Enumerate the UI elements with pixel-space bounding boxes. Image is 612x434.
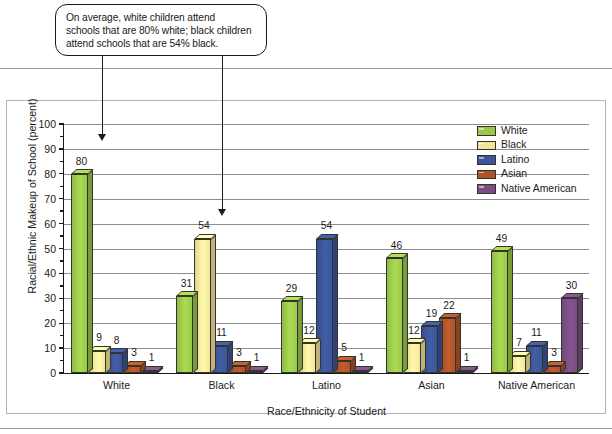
legend-swatch-icon (477, 155, 496, 165)
bar-value-label: 11 (207, 328, 236, 338)
x-category-label-black: Black (169, 379, 274, 391)
x-axis-title: Race/Ethnicity of Student (64, 405, 589, 417)
bar-face (176, 296, 193, 373)
bar-value-label: 1 (347, 353, 376, 363)
bar-black-white[interactable] (176, 296, 193, 373)
bar-value-label: 49 (487, 234, 516, 244)
bar-value-label: 29 (277, 284, 306, 294)
bar-side (438, 321, 443, 373)
bar-face (281, 301, 298, 373)
legend-label: Asian (501, 169, 527, 179)
callout-arrowhead-black (218, 209, 226, 216)
callout-line-3: attend schools that are 54% black. (66, 37, 257, 50)
legend-item-white[interactable]: White (477, 124, 577, 138)
bar-face (491, 251, 508, 373)
bar-side (193, 291, 198, 373)
bar-value-label: 80 (67, 157, 96, 167)
bar-value-label: 7 (505, 338, 534, 348)
bar-value-label: 46 (382, 241, 411, 251)
bar-face (456, 371, 473, 373)
bar-native-american-white[interactable] (491, 251, 508, 373)
bar-latino-white[interactable] (281, 301, 298, 373)
bar-value-label: 11 (522, 328, 551, 338)
bar-face (386, 258, 403, 373)
callout-leader-line-white (102, 56, 103, 136)
legend-swatch-icon (477, 184, 496, 194)
bar-value-label: 31 (172, 279, 201, 289)
legend-item-black[interactable]: Black (477, 138, 577, 152)
bar-value-label: 30 (557, 281, 586, 291)
bar-value-label: 54 (312, 221, 341, 231)
legend-item-latino[interactable]: Latino (477, 153, 577, 167)
legend-swatch-icon (477, 141, 496, 151)
page-rule-top (0, 68, 612, 69)
legend-swatch-icon (477, 126, 496, 136)
bar-side (456, 314, 461, 373)
y-tick-label-0: 0 (34, 368, 56, 379)
bar-value-label: 12 (400, 326, 429, 336)
callout-box: On average, white children attend school… (55, 4, 267, 56)
bar-side (403, 254, 408, 373)
legend-label: White (501, 126, 528, 136)
bar-side (316, 339, 321, 373)
bar-side (508, 246, 513, 373)
legend-label: Black (501, 140, 526, 150)
bar-value-label: 1 (452, 353, 481, 363)
x-category-label-latino: Latino (274, 379, 379, 391)
callout-line-2: schools that are 80% white; black childr… (66, 24, 257, 37)
bar-side (211, 234, 216, 373)
x-category-label-white: White (64, 379, 169, 391)
legend-swatch-icon (477, 170, 496, 180)
bar-asian-native-american[interactable] (456, 371, 473, 373)
bar-value-label: 5 (330, 343, 359, 353)
legend-item-asian[interactable]: Asian (477, 167, 577, 181)
legend-label: Native American (501, 184, 577, 194)
bar-value-label: 1 (137, 353, 166, 363)
callout-leader-line-black (222, 56, 223, 211)
bar-value-label: 3 (540, 348, 569, 358)
chart-legend: WhiteBlackLatinoAsianNative American (477, 124, 577, 196)
y-axis-title: Racial/Ethnic Makeup of School (percent) (26, 71, 38, 321)
legend-item-native-american[interactable]: Native American (477, 182, 577, 196)
callout-arrowhead-white (98, 134, 106, 141)
callout-line-1: On average, white children attend (66, 11, 257, 24)
x-axis-baseline (64, 373, 589, 374)
page-rule-bottom (0, 428, 612, 429)
bar-value-label: 8 (102, 336, 131, 346)
bar-side (421, 339, 426, 373)
bar-value-label: 1 (242, 353, 271, 363)
x-category-label-native-american: Native American (484, 379, 589, 391)
legend-label: Latino (501, 155, 529, 165)
bar-value-label: 54 (190, 221, 219, 231)
bar-value-label: 12 (295, 326, 324, 336)
bar-side (578, 294, 583, 373)
y-tick-label-10: 10 (34, 343, 56, 354)
x-category-label-asian: Asian (379, 379, 484, 391)
bar-value-label: 22 (435, 301, 464, 311)
bar-asian-white[interactable] (386, 258, 403, 373)
